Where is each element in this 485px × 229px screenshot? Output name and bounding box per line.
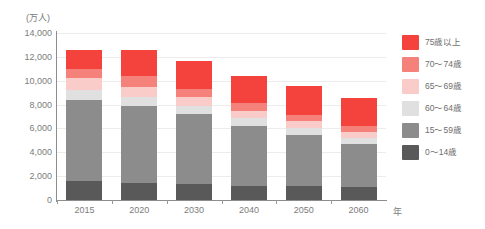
legend-item-label: 0～14歳 (425, 148, 457, 157)
bar-segment (286, 186, 322, 200)
bar-segment (121, 87, 157, 97)
legend-item[interactable]: 70～74歳 (402, 53, 484, 75)
bar-stack (176, 33, 212, 200)
x-axis-tick-mark (112, 200, 113, 204)
x-axis-unit-label: 年 (393, 205, 402, 218)
gridline (57, 105, 386, 106)
legend-item[interactable]: 60～64歳 (402, 97, 484, 119)
legend-item-label: 65～69歳 (425, 82, 462, 91)
bar-segment (231, 126, 267, 186)
bar-segment (286, 128, 322, 135)
x-axis-tick-mark (167, 200, 168, 204)
legend-item-label: 75歳以上 (425, 38, 461, 47)
bar-segment (66, 90, 102, 100)
y-axis-tick-label: 6,000 (29, 123, 52, 133)
y-axis-ticks: 02,0004,0006,0008,00010,00012,00014,000 (8, 33, 52, 200)
gridline (57, 81, 386, 82)
legend-item[interactable]: 0～14歳 (402, 141, 484, 163)
bar-segment (341, 98, 377, 126)
plot-area (57, 33, 386, 200)
chart-legend: 75歳以上70～74歳65～69歳60～64歳15～59歳0～14歳 (402, 31, 484, 163)
legend-item[interactable]: 75歳以上 (402, 31, 484, 53)
bar-segment (176, 106, 212, 115)
y-axis-tick-label: 12,000 (24, 52, 52, 62)
bar-segment (231, 111, 267, 119)
bar-segment (121, 97, 157, 106)
y-axis-tick-label: 10,000 (24, 76, 52, 86)
bar-segment (341, 126, 377, 132)
bar-segment (66, 100, 102, 181)
bar-segment (231, 103, 267, 111)
legend-color-swatch (402, 101, 419, 116)
bar-segment (121, 183, 157, 200)
x-axis-tick-mark (57, 200, 58, 204)
bar-segment (286, 121, 322, 128)
bar-segment (286, 86, 322, 114)
bar-segment (66, 50, 102, 70)
gridline (57, 152, 386, 153)
legend-item-label: 15～59歳 (425, 126, 462, 135)
bar-segment (66, 78, 102, 89)
y-axis-unit-label: (万人) (26, 11, 50, 24)
legend-item-label: 70～74歳 (425, 60, 462, 69)
legend-item[interactable]: 65～69歳 (402, 75, 484, 97)
bar-stack (231, 33, 267, 200)
x-axis-tick-label: 2020 (129, 205, 149, 215)
legend-color-swatch (402, 145, 419, 160)
x-axis-tick-mark (331, 200, 332, 204)
bar-segment (176, 114, 212, 184)
legend-color-swatch (402, 35, 419, 50)
bar-segment (341, 132, 377, 138)
bar-stack (66, 33, 102, 200)
bar-stack (121, 33, 157, 200)
bar-segment (176, 97, 212, 105)
bar-segment (176, 184, 212, 200)
bar-segment (121, 76, 157, 87)
x-axis-tick-mark (222, 200, 223, 204)
gridline (57, 33, 386, 34)
bar-stack (341, 33, 377, 200)
legend-color-swatch (402, 79, 419, 94)
bar-segment (341, 144, 377, 187)
bar-segment (286, 115, 322, 122)
bar-segment (341, 187, 377, 200)
legend-color-swatch (402, 123, 419, 138)
bar-segment (231, 118, 267, 126)
y-axis-tick-label: 2,000 (29, 171, 52, 181)
bar-segment (121, 50, 157, 76)
x-axis-tick-label: 2015 (74, 205, 94, 215)
population-stacked-bar-chart: (万人) 02,0004,0006,0008,00010,00012,00014… (0, 0, 485, 229)
y-axis-tick-label: 4,000 (29, 147, 52, 157)
gridline (57, 128, 386, 129)
bar-segment (341, 138, 377, 144)
bar-segment (176, 61, 212, 88)
bar-segment (231, 76, 267, 103)
y-axis-tick-label: 8,000 (29, 100, 52, 110)
bar-segment (176, 89, 212, 98)
x-axis-tick-label: 2040 (239, 205, 259, 215)
legend-item[interactable]: 15～59歳 (402, 119, 484, 141)
bar-segment (66, 69, 102, 78)
legend-item-label: 60～64歳 (425, 104, 462, 113)
bar-segment (231, 186, 267, 200)
y-axis-tick-label: 14,000 (24, 28, 52, 38)
bar-segment (286, 135, 322, 186)
x-axis-tick-mark (276, 200, 277, 204)
x-axis-tick-label: 2050 (294, 205, 314, 215)
x-axis-tick-label: 2060 (349, 205, 369, 215)
legend-color-swatch (402, 57, 419, 72)
x-axis-tick-label: 2030 (184, 205, 204, 215)
gridline (57, 176, 386, 177)
bar-stack (286, 33, 322, 200)
bar-segment (121, 106, 157, 183)
gridline (57, 57, 386, 58)
y-axis-tick-label: 0 (47, 195, 52, 205)
bar-segment (66, 181, 102, 200)
